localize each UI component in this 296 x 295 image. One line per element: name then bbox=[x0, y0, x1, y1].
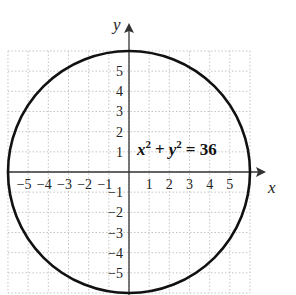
y-axis-label: y bbox=[111, 15, 121, 34]
x-tick-label: −3 bbox=[57, 177, 72, 192]
x-tick-label: −2 bbox=[77, 177, 92, 192]
x-tick-labels: −5−4−3−2−112345 bbox=[17, 177, 234, 192]
y-tick-label: 3 bbox=[116, 104, 123, 119]
y-tick-label: 5 bbox=[116, 64, 123, 79]
y-tick-label: −2 bbox=[108, 205, 123, 220]
y-tick-label: −1 bbox=[108, 185, 123, 200]
x-tick-label: −4 bbox=[37, 177, 52, 192]
y-tick-label: −3 bbox=[108, 226, 123, 241]
x-tick-label: 3 bbox=[186, 177, 193, 192]
x-tick-label: 1 bbox=[146, 177, 153, 192]
y-tick-label: −5 bbox=[108, 266, 123, 281]
x-tick-label: 2 bbox=[166, 177, 173, 192]
y-tick-label: 1 bbox=[116, 145, 123, 160]
y-tick-label: 2 bbox=[116, 125, 123, 140]
x-tick-label: 5 bbox=[226, 177, 233, 192]
equation-label: x2+y2= 36 bbox=[136, 138, 217, 159]
x-axis-label: x bbox=[267, 178, 276, 197]
y-tick-label: 4 bbox=[116, 84, 123, 99]
y-tick-label: −4 bbox=[108, 246, 123, 261]
x-tick-label: −5 bbox=[17, 177, 32, 192]
circle-graph: −5−4−3−2−112345 54321−1−2−3−4−5 x y x2+y… bbox=[0, 0, 296, 295]
x-tick-label: 4 bbox=[206, 177, 213, 192]
